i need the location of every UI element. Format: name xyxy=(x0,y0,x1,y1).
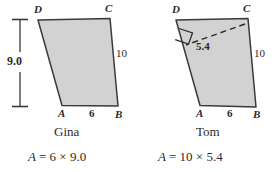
tom-formula-first-factor: 10 xyxy=(180,149,193,164)
tom-vertex-label-d: D xyxy=(172,4,180,15)
gina-formula-times: × xyxy=(59,149,66,164)
tom-slant-side-measure-label: 10 xyxy=(254,48,265,59)
gina-height-measure-label: 9.0 xyxy=(7,55,22,67)
tom-area-formula: A = 10 × 5.4 xyxy=(158,150,223,163)
gina-formula-first-factor: 6 xyxy=(50,149,57,164)
gina-vertex-label-a: A xyxy=(58,108,65,119)
figure-root: D C A B 9.0 10 6 Gina A = 6 × 9.0 D C A … xyxy=(0,0,274,172)
tom-altitude-measure-label: 5.4 xyxy=(196,41,210,52)
gina-formula-equals: = xyxy=(39,149,46,164)
tom-formula-equals: = xyxy=(169,149,176,164)
gina-area-formula: A = 6 × 9.0 xyxy=(28,150,86,163)
tom-person-label: Tom xyxy=(196,125,220,138)
tom-vertex-label-b: B xyxy=(253,109,260,120)
gina-person-label: Gina xyxy=(54,125,79,138)
gina-vertex-label-b: B xyxy=(115,109,122,120)
tom-vertex-label-c: C xyxy=(243,3,250,14)
gina-vertex-label-c: C xyxy=(105,3,112,14)
figure-canvas xyxy=(0,0,274,172)
tom-formula-variable: A xyxy=(158,149,166,164)
gina-slant-side-measure-label: 10 xyxy=(116,48,127,59)
tom-panel-graphics xyxy=(175,19,256,108)
tom-formula-second-factor: 5.4 xyxy=(206,149,222,164)
tom-formula-times: × xyxy=(196,149,203,164)
gina-formula-variable: A xyxy=(28,149,36,164)
gina-parallelogram xyxy=(38,19,118,107)
tom-base-measure-label: 6 xyxy=(227,108,233,119)
gina-base-measure-label: 6 xyxy=(89,108,95,119)
gina-panel-graphics xyxy=(12,19,118,107)
gina-vertex-label-d: D xyxy=(34,4,42,15)
tom-vertex-label-a: A xyxy=(196,108,203,119)
gina-formula-second-factor: 9.0 xyxy=(70,149,86,164)
